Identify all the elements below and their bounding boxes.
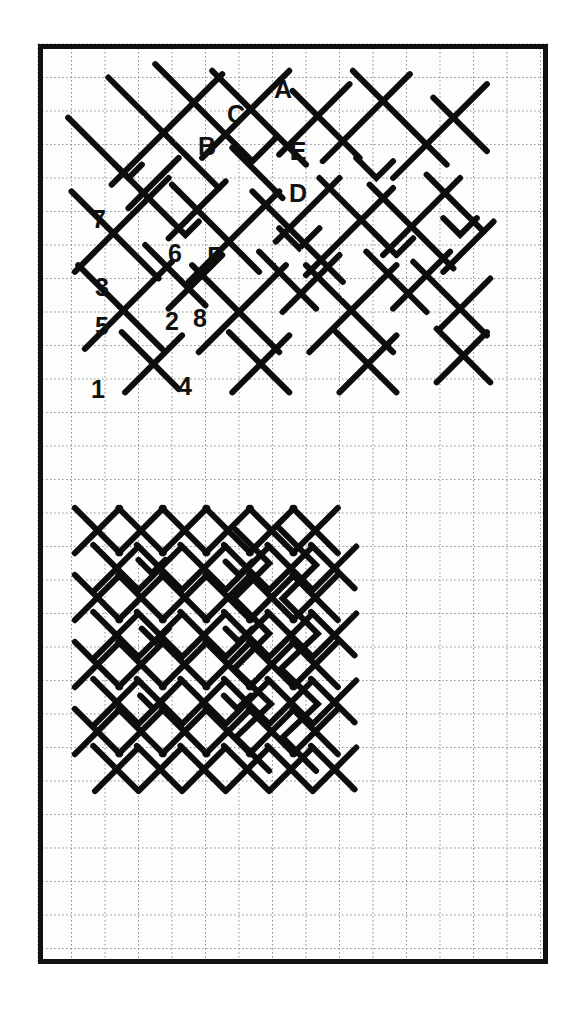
node-label-2: 2 xyxy=(165,307,179,335)
node-label-C: C xyxy=(227,100,245,128)
node-label-D: D xyxy=(289,179,307,207)
node-label-1: 1 xyxy=(91,375,105,403)
node-label-3: 3 xyxy=(95,273,109,301)
node-label-5: 5 xyxy=(95,312,109,340)
node-label-4: 4 xyxy=(178,372,192,400)
figure-root: ACBEDF76352814 xyxy=(0,0,583,1009)
node-label-B: B xyxy=(198,132,216,160)
lattice-figure: ACBEDF76352814 xyxy=(0,0,583,1009)
node-label-6: 6 xyxy=(168,239,182,267)
node-label-8: 8 xyxy=(193,304,207,332)
node-label-F: F xyxy=(207,242,222,270)
node-label-A: A xyxy=(274,75,292,103)
node-label-7: 7 xyxy=(92,205,106,233)
node-label-E: E xyxy=(290,137,307,165)
